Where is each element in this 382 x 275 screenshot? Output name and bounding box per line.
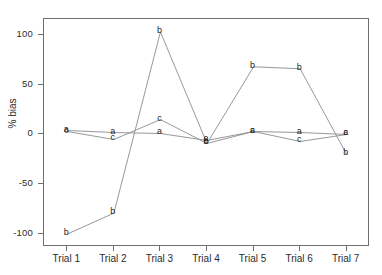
y-axis-tick-label: 0	[0, 127, 33, 138]
data-point-label-c-trial-2: c	[106, 133, 120, 142]
x-axis-tick-mark	[113, 246, 114, 251]
y-axis-tick-mark	[38, 133, 43, 134]
data-point-label-b-trial-3: b	[152, 26, 166, 35]
chart-figure: % bias -100-50050100Trial 1Trial 2Trial …	[0, 0, 382, 275]
plot-area	[43, 18, 369, 246]
y-axis-tick-mark	[38, 183, 43, 184]
data-point-label-c-trial-4: c	[199, 137, 213, 146]
y-axis-tick-mark	[38, 34, 43, 35]
x-axis-tick-mark	[159, 246, 160, 251]
x-axis-tick-label: Trial 7	[316, 253, 376, 264]
x-axis-tick-mark	[66, 246, 67, 251]
y-axis-tick-mark	[38, 84, 43, 85]
x-axis-tick-mark	[346, 246, 347, 251]
y-axis-tick-label: -100	[0, 227, 33, 238]
data-point-label-b-trial-6: b	[292, 63, 306, 72]
x-axis-tick-mark	[299, 246, 300, 251]
data-point-label-c-trial-3: c	[152, 114, 166, 123]
y-axis-tick-label: 100	[0, 28, 33, 39]
data-point-label-c-trial-5: c	[246, 126, 260, 135]
y-axis-tick-label: 50	[0, 78, 33, 89]
data-point-label-c-trial-7: c	[339, 128, 353, 137]
x-axis-tick-mark	[206, 246, 207, 251]
data-point-label-a-trial-3: a	[152, 127, 166, 136]
y-axis-tick-mark	[38, 233, 43, 234]
data-point-label-b-trial-7: b	[339, 148, 353, 157]
y-axis-tick-label: -50	[0, 177, 33, 188]
data-point-label-b-trial-1: b	[59, 228, 73, 237]
data-point-label-b-trial-2: b	[106, 207, 120, 216]
data-point-label-b-trial-5: b	[246, 61, 260, 70]
x-axis-tick-mark	[253, 246, 254, 251]
data-point-label-c-trial-1: c	[59, 126, 73, 135]
data-point-label-c-trial-6: c	[292, 135, 306, 144]
